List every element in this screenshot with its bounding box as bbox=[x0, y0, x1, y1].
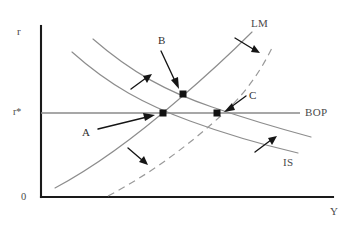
shift-arrow-is-upper bbox=[131, 74, 152, 89]
point-marker-c bbox=[214, 110, 221, 117]
pointer-arrow-b bbox=[161, 51, 179, 89]
point-label-c: C bbox=[249, 90, 256, 101]
lm-curve-shifted bbox=[108, 48, 272, 196]
axes-group bbox=[41, 26, 333, 197]
point-marker-a bbox=[160, 110, 167, 117]
point-label-b: B bbox=[158, 35, 165, 46]
is-lm-bop-diagram bbox=[0, 0, 349, 225]
bop-curve-label: BOP bbox=[305, 107, 327, 118]
point-label-a: A bbox=[82, 127, 90, 138]
origin-label: 0 bbox=[21, 192, 26, 203]
point-pointer-arrows-group bbox=[98, 51, 246, 129]
shift-arrows-group bbox=[128, 38, 277, 165]
x-axis-label: Y bbox=[330, 206, 338, 217]
point-marker-b bbox=[180, 91, 187, 98]
shift-arrow-is-lower bbox=[255, 136, 277, 152]
pointer-arrow-c bbox=[224, 96, 246, 112]
is-curves-group bbox=[72, 39, 311, 153]
is-curve-label: IS bbox=[283, 157, 293, 168]
is-curve-original bbox=[72, 52, 298, 153]
y-axis-tick-label-rstar: r* bbox=[13, 107, 21, 117]
lm-curve-label: LM bbox=[251, 18, 268, 29]
y-axis-label: r bbox=[17, 26, 21, 37]
figure-canvas: r r* 0 Y LM BOP IS A B C bbox=[0, 0, 349, 225]
shift-arrow-lm-lower bbox=[128, 148, 148, 165]
